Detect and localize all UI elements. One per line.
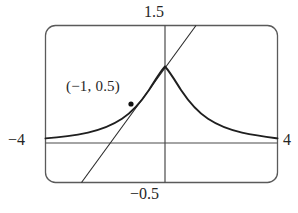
x-max-label: 4 <box>283 132 291 148</box>
tangency-point-marker <box>128 101 133 106</box>
y-min-label: −0.5 <box>130 186 159 202</box>
viewing-window-frame <box>46 26 278 183</box>
y-max-label: 1.5 <box>144 4 164 20</box>
graph-canvas <box>0 0 298 213</box>
x-min-label: −4 <box>8 132 25 148</box>
tangency-point-label: (−1, 0.5) <box>66 79 120 94</box>
graph-figure: ) 1.5 −0.5 −4 4 (−1, 0.5) <box>0 0 298 213</box>
